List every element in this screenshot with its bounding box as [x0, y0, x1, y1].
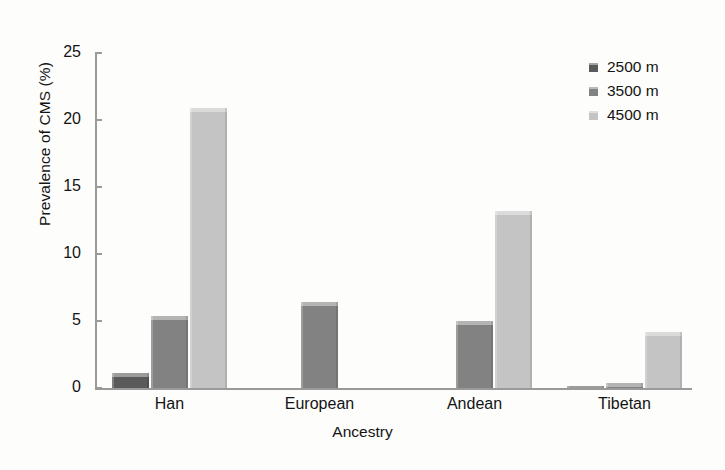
y-tick-mark [95, 52, 102, 54]
legend-swatch-icon [589, 87, 598, 96]
bar-highlight-left [151, 316, 153, 388]
y-tick-mark [95, 119, 102, 121]
legend-label: 4500 m [607, 106, 659, 124]
bar-shade-right [680, 332, 682, 388]
bar-highlight-left [495, 211, 497, 388]
bar-highlight-left [645, 332, 647, 388]
bar-highlight [301, 302, 338, 306]
y-tick-label: 20 [45, 111, 81, 127]
bar-highlight [112, 373, 149, 377]
bar-andean-4500m [495, 211, 532, 388]
legend-swatch-highlight [589, 87, 598, 89]
bar-highlight [456, 321, 493, 325]
bar-highlight-left [301, 302, 303, 388]
legend-item: 3500 m [589, 79, 659, 103]
legend-item: 4500 m [589, 103, 659, 127]
legend-label: 2500 m [607, 58, 659, 76]
bar-highlight-left [190, 108, 192, 388]
bar-shade-right [530, 211, 532, 388]
bar-andean-3500m [456, 321, 493, 388]
bar-shade-right [147, 373, 149, 388]
bar-highlight [151, 316, 188, 320]
bar-highlight-left [112, 373, 114, 388]
bar-shade-right [491, 321, 493, 388]
bar-highlight [495, 211, 532, 215]
legend-swatch-highlight [589, 111, 598, 113]
legend-swatch-highlight [589, 63, 598, 65]
x-axis-line [95, 388, 692, 390]
bar-highlight [645, 332, 682, 336]
x-category-label-european: European [250, 395, 390, 413]
x-category-label-andean: Andean [405, 395, 545, 413]
y-axis-line [95, 53, 97, 389]
y-tick-label: 25 [45, 44, 81, 60]
legend: 2500 m3500 m4500 m [589, 55, 659, 127]
bar-shade-right [186, 316, 188, 388]
bar-highlight [606, 383, 643, 387]
legend-swatch-icon [589, 111, 598, 120]
bar-han-2500m [112, 373, 149, 388]
bar-shade-right [225, 108, 227, 388]
legend-label: 3500 m [607, 82, 659, 100]
bar-han-4500m [190, 108, 227, 388]
y-tick-mark [95, 320, 102, 322]
bar-highlight-left [456, 321, 458, 388]
bar-chart: Prevalence of CMS (%) 2520151050 HanEuro… [0, 0, 725, 470]
bar-tibetan-4500m [645, 332, 682, 388]
x-category-label-tibetan: Tibetan [555, 395, 695, 413]
x-axis-title: Ancestry [0, 423, 725, 441]
y-tick-label: 5 [45, 312, 81, 328]
y-tick-label: 15 [45, 178, 81, 194]
y-tick-mark [95, 253, 102, 255]
y-tick-mark [95, 186, 102, 188]
x-category-label-han: Han [100, 395, 240, 413]
y-tick-label: 0 [45, 379, 81, 395]
bar-han-3500m [151, 316, 188, 388]
legend-item: 2500 m [589, 55, 659, 79]
bar-european-3500m [301, 302, 338, 388]
bar-highlight [190, 108, 227, 112]
bar-shade-right [336, 302, 338, 388]
legend-swatch-icon [589, 63, 598, 72]
y-tick-label: 10 [45, 245, 81, 261]
